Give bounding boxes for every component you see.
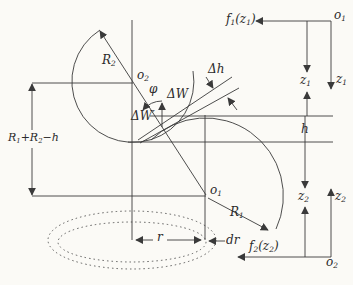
r1-sphere-arc [151,118,283,229]
label-z1-axis: z1 [336,73,347,87]
delta-h-pointer-lower [228,98,237,110]
hertz-contact-diagram: f1(z1) o1 z1 z1 Δh h z2 z2 f2(z2) o2 R2 … [0,0,353,285]
label-h: h [301,123,309,136]
label-delta-w: ΔW [167,88,188,101]
label-phi-angle: φ [149,83,157,96]
label-z1-dim: z1 [300,74,311,88]
label-center-distance: R1+R2−h [8,132,59,145]
label-z2-dim: z2 [298,190,309,204]
label-r2-radius: R2 [102,54,116,68]
delta-h-pointer-upper [206,77,213,88]
label-f1-of-z1: f1(z1) [226,13,256,27]
label-delta-w-prime: ΔW′ [131,110,155,123]
label-z2-axis: z2 [335,190,346,204]
label-r-dim: r [156,231,164,244]
label-dr-dim: dr [226,234,239,247]
label-o2-origin: o2 [326,256,338,270]
label-delta-h: Δh [208,63,224,76]
label-r1-radius: R1 [230,206,244,220]
label-f2-of-z2: f2(z2) [249,240,279,254]
label-o1-center: o1 [210,184,222,198]
label-o2-center: o2 [137,69,149,83]
label-o1-origin: o1 [334,9,346,23]
